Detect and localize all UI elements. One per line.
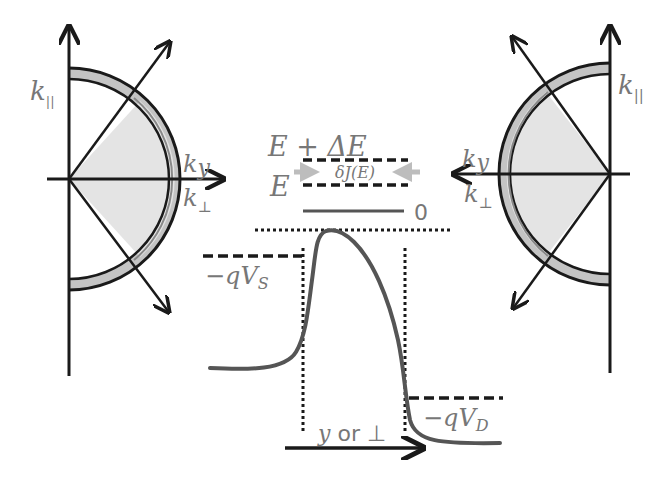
left-k-space-hemisphere: k|| ky k⊥ — [30, 28, 222, 376]
energy-window: E + ΔE δJ(E) E 0 — [267, 131, 428, 225]
zero-label: 0 — [414, 200, 428, 225]
left-k-parallel-label: k|| — [30, 76, 55, 109]
lower-energy-label: E — [269, 171, 290, 202]
drain-voltage-label: −qVD — [423, 404, 489, 435]
right-k-space-hemisphere: k|| ky k⊥ — [455, 28, 644, 373]
source-voltage-label: −qVS — [205, 262, 269, 293]
potential-profile: −qVS −qVD y or ⊥ — [203, 230, 503, 448]
transport-direction-label: y or ⊥ — [317, 421, 386, 446]
right-k-y-label: ky — [462, 145, 490, 175]
right-k-perp-label: k⊥ — [464, 180, 493, 212]
transport-diagram: k|| ky k⊥ k|| ky k⊥ E + ΔE δJ(E) E 0 −qV — [0, 0, 666, 486]
right-k-parallel-label: k|| — [618, 70, 644, 104]
upper-energy-label: E + ΔE — [267, 131, 367, 162]
left-k-y-label: ky — [183, 150, 211, 180]
left-k-perp-label: k⊥ — [183, 184, 212, 216]
flux-label: δJ(E) — [335, 163, 375, 182]
